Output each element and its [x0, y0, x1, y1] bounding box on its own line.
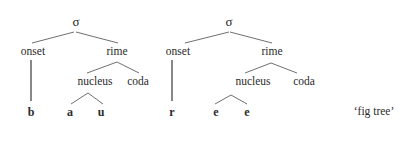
segment-a: a [67, 106, 73, 118]
segment-r: r [169, 106, 174, 118]
nucleus-e1-branch [215, 95, 231, 104]
sigma-rime-branch-2 [230, 32, 272, 43]
onset-node: onset [166, 46, 190, 58]
rime-node: rime [261, 46, 282, 58]
nucleus-u-branch [88, 93, 103, 104]
gloss-text: ‘fig tree’ [354, 106, 395, 118]
nucleus-node: nucleus [235, 76, 270, 88]
rime-nucleus-branch-2 [245, 63, 271, 73]
sigma-rime-branch-1 [76, 32, 118, 43]
rime-coda-branch-1 [117, 62, 139, 73]
segment-e2: e [244, 106, 249, 118]
coda-node: coda [127, 76, 149, 88]
sigma-node: σ [72, 15, 79, 28]
segment-e1: e [213, 106, 218, 118]
rime-nucleus-branch-1 [87, 62, 117, 73]
nucleus-a-branch [71, 93, 88, 104]
sigma-onset-branch-2 [185, 32, 229, 43]
segment-b: b [28, 106, 35, 118]
rime-node: rime [106, 46, 127, 58]
coda-node: coda [293, 76, 315, 88]
segment-u: u [98, 106, 105, 118]
nucleus-e2-branch [231, 95, 247, 104]
tree-branches [0, 0, 409, 148]
sigma-onset-branch-1 [32, 32, 74, 43]
sigma-node: σ [225, 15, 232, 28]
rime-coda-branch-2 [271, 63, 297, 73]
onset-node: onset [21, 46, 45, 58]
nucleus-node: nucleus [77, 76, 112, 88]
